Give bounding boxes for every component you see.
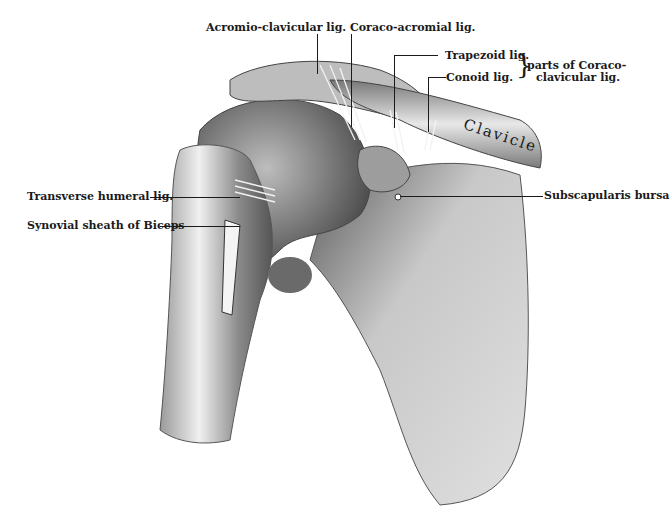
label-coraco-acromial: Coraco-acromial lig.: [350, 22, 475, 34]
label-coraco-clavicular-line2: clavicular lig.: [536, 72, 620, 84]
label-subscapularis-bursa: Subscapularis bursa: [544, 190, 669, 202]
conoid-leader-v: [428, 77, 429, 132]
acromio-clavicular-leader: [317, 34, 318, 74]
coracoid: [358, 146, 410, 192]
conoid-leader-h: [428, 77, 446, 78]
trapezoid-leader-v: [394, 55, 395, 128]
humerus: [160, 145, 272, 443]
label-acromio-clavicular: Acromio-clavicular lig.: [206, 22, 346, 34]
trapezoid-leader-h: [394, 55, 438, 56]
coraco-acromial-leader: [351, 34, 352, 127]
label-synovial-sheath: Synovial sheath of Biceps: [27, 220, 185, 232]
label-conoid: Conoid lig.: [446, 72, 513, 84]
shoulder-anatomy-figure: Acromio-clavicular lig. Coraco-acromial …: [0, 0, 672, 530]
subscapularis-bursa-leader: [400, 196, 543, 197]
label-transverse-humeral: Transverse humeral lig.: [27, 191, 173, 203]
